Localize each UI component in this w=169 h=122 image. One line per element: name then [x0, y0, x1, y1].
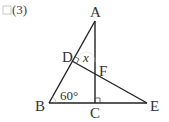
label-B: B — [35, 98, 45, 114]
label-D: D — [62, 49, 73, 65]
right-angle-mark-C — [95, 98, 100, 103]
label-C: C — [90, 105, 100, 121]
label-E: E — [150, 98, 159, 114]
label-angle-60: 60° — [60, 88, 78, 103]
label-A: A — [90, 4, 101, 20]
label-F: F — [99, 63, 107, 79]
label-x: x — [82, 50, 89, 65]
problem-number: (3) — [12, 2, 27, 17]
checkbox-icon[interactable] — [3, 6, 11, 14]
geometry-diagram: (3) A D F B C E x 60° — [0, 0, 169, 122]
angle-arc-B — [53, 97, 57, 103]
segment-DE — [72, 61, 147, 103]
